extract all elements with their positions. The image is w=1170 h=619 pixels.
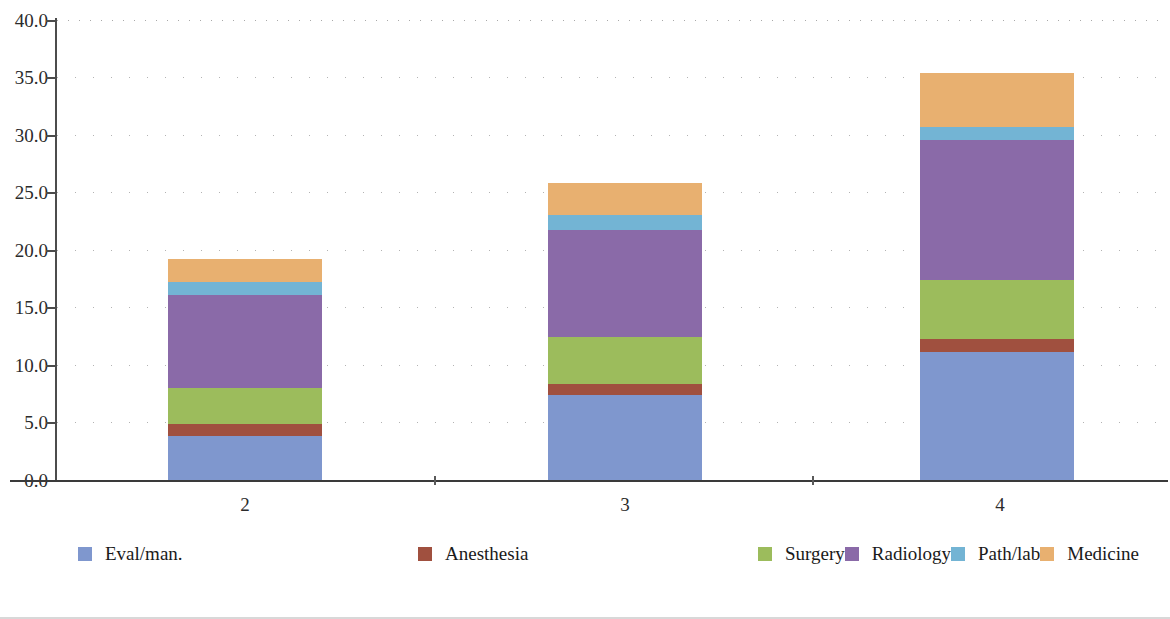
y-axis-tick: [46, 20, 55, 22]
legend-swatch-icon: [418, 547, 432, 561]
legend-label: Surgery: [785, 543, 845, 564]
legend-label: Radiology: [872, 543, 951, 564]
legend-item-anesthesia[interactable]: Anesthesia: [418, 540, 758, 567]
x-axis-line: [10, 480, 1168, 482]
stacked-bar-chart: 40.0 35.0 30.0 25.0 20.0 15.0 10.0 5.0 0…: [0, 0, 1170, 619]
legend-item-radiology[interactable]: Radiology: [845, 540, 951, 567]
bar-segment-path-lab[interactable]: [168, 282, 322, 295]
legend-swatch-icon: [1040, 547, 1054, 561]
y-axis-tick: [46, 77, 55, 79]
bar-segment-eval-man[interactable]: [168, 436, 322, 480]
bar-group-4: [920, 20, 1074, 480]
y-axis-tick: [46, 250, 55, 252]
legend-swatch-icon: [758, 547, 772, 561]
y-axis-tick: [46, 422, 55, 424]
stacked-bar-2[interactable]: [168, 259, 322, 480]
y-axis-tick: [46, 307, 55, 309]
bar-segment-path-lab[interactable]: [920, 127, 1074, 140]
y-axis-label-30: 30.0: [2, 126, 48, 145]
x-axis-label-4: 4: [995, 495, 1005, 515]
bar-segment-medicine[interactable]: [920, 73, 1074, 127]
y-axis-label-5: 5.0: [2, 413, 48, 432]
bar-group-3: [548, 20, 702, 480]
y-axis-label-40: 40.0: [2, 11, 48, 30]
legend-item-medicine[interactable]: Medicine: [1040, 540, 1139, 567]
y-axis-tick: [46, 365, 55, 367]
bar-group-2: [168, 20, 322, 480]
legend-label: Eval/man.: [105, 543, 183, 564]
x-axis-tick: [812, 476, 814, 485]
bar-segment-medicine[interactable]: [168, 259, 322, 282]
plot-area: [55, 20, 1167, 480]
x-axis-label-3: 3: [620, 495, 630, 515]
bar-segment-medicine[interactable]: [548, 183, 702, 215]
legend-item-surgery[interactable]: Surgery: [758, 540, 845, 567]
bar-segment-radiology[interactable]: [168, 295, 322, 388]
legend-label: Anesthesia: [445, 543, 528, 564]
legend-item-path-lab[interactable]: Path/lab: [951, 540, 1040, 567]
y-axis-labels: 40.0 35.0 30.0 25.0 20.0 15.0 10.0 5.0 0…: [0, 0, 48, 619]
bar-segment-surgery[interactable]: [548, 337, 702, 384]
y-axis-label-15: 15.0: [2, 298, 48, 317]
y-axis-label-25: 25.0: [2, 183, 48, 202]
bar-segment-path-lab[interactable]: [548, 215, 702, 230]
bar-segment-surgery[interactable]: [168, 388, 322, 424]
chart-legend: Eval/man. Anesthesia Surgery Radiology P…: [78, 540, 838, 567]
y-axis-label-10: 10.0: [2, 356, 48, 375]
y-axis-tick: [46, 192, 55, 194]
legend-swatch-icon: [845, 547, 859, 561]
stacked-bar-3[interactable]: [548, 183, 702, 480]
bar-segment-eval-man[interactable]: [920, 352, 1074, 480]
bar-segment-anesthesia[interactable]: [168, 424, 322, 436]
bar-segment-radiology[interactable]: [920, 140, 1074, 280]
y-axis-label-35: 35.0: [2, 68, 48, 87]
bar-segment-anesthesia[interactable]: [548, 384, 702, 395]
y-axis-label-20: 20.0: [2, 241, 48, 260]
bar-segment-anesthesia[interactable]: [920, 339, 1074, 353]
legend-swatch-icon: [78, 547, 92, 561]
legend-item-eval-man[interactable]: Eval/man.: [78, 540, 418, 567]
x-axis-label-2: 2: [240, 495, 250, 515]
x-axis-tick: [434, 476, 436, 485]
y-axis-tick: [46, 135, 55, 137]
bar-segment-radiology[interactable]: [548, 230, 702, 337]
bar-segment-surgery[interactable]: [920, 280, 1074, 339]
legend-swatch-icon: [951, 547, 965, 561]
legend-label: Path/lab: [978, 543, 1040, 564]
stacked-bar-4[interactable]: [920, 73, 1074, 480]
legend-label: Medicine: [1067, 543, 1139, 564]
bar-segment-eval-man[interactable]: [548, 395, 702, 480]
